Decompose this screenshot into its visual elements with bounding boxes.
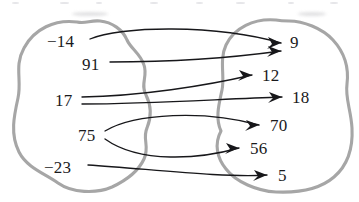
mapping-diagram-canvas: −14 91 17 75 −23 9 12 18 70 56 5 xyxy=(0,0,359,202)
domain-element-label: 75 xyxy=(78,127,95,144)
codomain-element-label: 18 xyxy=(292,89,309,106)
domain-element-label: −23 xyxy=(44,159,71,176)
codomain-element-label: 56 xyxy=(250,140,267,157)
domain-set-outline xyxy=(14,21,151,192)
domain-element-label: 17 xyxy=(55,92,72,109)
codomain-element-label: 5 xyxy=(278,167,287,184)
codomain-element-label: 9 xyxy=(290,34,299,51)
codomain-element-label: 12 xyxy=(262,67,279,84)
codomain-element-label: 70 xyxy=(270,117,287,134)
domain-element-label: −14 xyxy=(47,33,74,50)
domain-element-label: 91 xyxy=(82,56,99,73)
